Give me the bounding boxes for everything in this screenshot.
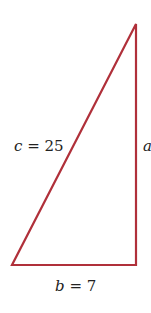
hypotenuse-label: c = 25 <box>14 137 64 155</box>
vertical-side-label: a <box>143 137 151 155</box>
base-label: b = 7 <box>55 277 96 295</box>
triangle-diagram: c = 25 a b = 7 <box>0 0 151 313</box>
